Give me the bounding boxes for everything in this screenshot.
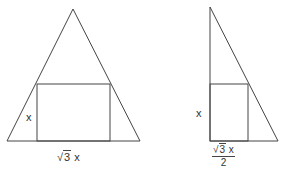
geometry-diagram (0, 0, 288, 176)
radicand: 3 (63, 150, 71, 163)
right-triangle (210, 7, 278, 141)
fraction-numerator: √3 x (212, 145, 235, 157)
right-height-label: x (196, 108, 202, 119)
left-height-label: x (26, 112, 32, 123)
right-inscribed-rectangle (210, 84, 248, 141)
right-base-fraction: √3 x 2 (212, 145, 235, 168)
radicand: 3 (219, 143, 227, 155)
sqrt-symbol: √ (213, 145, 219, 155)
variable: x (229, 144, 234, 155)
left-inscribed-rectangle (37, 84, 110, 141)
variable: x (74, 151, 80, 163)
left-base-label: √3 x (57, 152, 80, 163)
fraction-denominator: 2 (212, 157, 235, 168)
